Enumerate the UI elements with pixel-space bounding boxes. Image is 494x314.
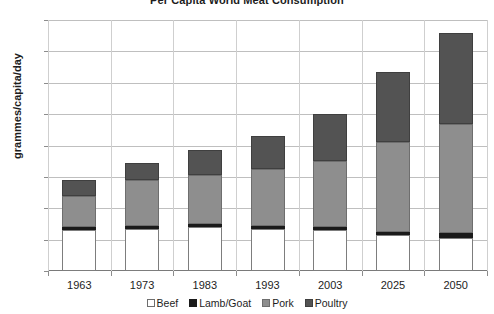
x-tick-label: 1983 — [175, 279, 235, 291]
bar-segment-pork[interactable] — [313, 161, 347, 227]
legend-swatch-beef-icon — [147, 299, 155, 307]
legend-label: Lamb/Goat — [199, 297, 251, 309]
category-divider — [487, 20, 488, 271]
plot-area — [48, 20, 487, 271]
y-axis-title: grammes/capita/day — [11, 6, 23, 206]
x-tick-label: 2025 — [363, 279, 423, 291]
chart-title: Per Capita World Meat Consumption — [0, 0, 494, 6]
legend-swatch-lamb-icon — [189, 299, 197, 307]
legend-swatch-pork-icon — [262, 299, 270, 307]
y-tick-mark — [44, 51, 48, 52]
bar-group[interactable] — [125, 20, 159, 271]
chart-legend: BeefLamb/GoatPorkPoultry — [0, 297, 494, 309]
legend-item-poultry[interactable]: Poultry — [305, 297, 348, 309]
bar-segment-poultry[interactable] — [62, 180, 96, 196]
bar-segment-lamb[interactable] — [188, 224, 222, 227]
bar-segment-beef[interactable] — [188, 227, 222, 271]
bar-segment-pork[interactable] — [125, 180, 159, 225]
y-tick-mark — [44, 240, 48, 241]
category-divider — [173, 20, 174, 271]
bar-segment-poultry[interactable] — [251, 136, 285, 169]
bar-segment-beef[interactable] — [251, 229, 285, 271]
bar-segment-poultry[interactable] — [313, 114, 347, 161]
category-divider — [424, 20, 425, 271]
category-divider — [236, 20, 237, 271]
bar-segment-beef[interactable] — [439, 238, 473, 271]
bar-segment-beef[interactable] — [313, 230, 347, 271]
bar-group[interactable] — [313, 20, 347, 271]
x-tick-mark — [173, 271, 174, 276]
bar-segment-pork[interactable] — [251, 169, 285, 225]
bar-group[interactable] — [188, 20, 222, 271]
category-divider — [362, 20, 363, 271]
x-tick-mark — [236, 271, 237, 276]
bar-segment-pork[interactable] — [62, 196, 96, 227]
legend-label: Pork — [272, 297, 294, 309]
y-tick-mark — [44, 114, 48, 115]
y-tick-mark — [44, 146, 48, 147]
bar-segment-poultry[interactable] — [125, 163, 159, 180]
x-tick-mark — [48, 271, 49, 276]
legend-item-beef[interactable]: Beef — [147, 297, 179, 309]
legend-label: Beef — [157, 297, 179, 309]
x-tick-label: 1973 — [112, 279, 172, 291]
y-tick-mark — [44, 83, 48, 84]
legend-label: Poultry — [315, 297, 348, 309]
x-tick-label: 1963 — [49, 279, 109, 291]
legend-item-lamb[interactable]: Lamb/Goat — [189, 297, 251, 309]
bar-segment-pork[interactable] — [439, 124, 473, 234]
x-tick-mark — [487, 271, 488, 276]
x-tick-mark — [299, 271, 300, 276]
x-tick-label: 1993 — [238, 279, 298, 291]
x-tick-mark — [424, 271, 425, 276]
bar-segment-lamb[interactable] — [313, 227, 347, 230]
bar-segment-lamb[interactable] — [125, 226, 159, 229]
y-tick-mark — [44, 177, 48, 178]
bar-group[interactable] — [376, 20, 410, 271]
bar-segment-poultry[interactable] — [188, 150, 222, 175]
bar-segment-lamb[interactable] — [251, 226, 285, 229]
bar-segment-pork[interactable] — [188, 175, 222, 224]
bar-chart: Per Capita World Meat Consumption gramme… — [0, 0, 494, 314]
bar-segment-pork[interactable] — [376, 142, 410, 231]
y-tick-mark — [44, 208, 48, 209]
bar-segment-lamb[interactable] — [62, 227, 96, 230]
category-divider — [299, 20, 300, 271]
bar-segment-beef[interactable] — [62, 230, 96, 271]
legend-swatch-poultry-icon — [305, 299, 313, 307]
bar-segment-lamb[interactable] — [439, 233, 473, 238]
bar-segment-poultry[interactable] — [439, 33, 473, 124]
y-tick-mark — [44, 20, 48, 21]
bar-segment-poultry[interactable] — [376, 72, 410, 143]
bar-group[interactable] — [251, 20, 285, 271]
x-tick-label: 2003 — [300, 279, 360, 291]
category-divider — [111, 20, 112, 271]
bar-segment-lamb[interactable] — [376, 232, 410, 235]
bar-group[interactable] — [439, 20, 473, 271]
x-tick-mark — [111, 271, 112, 276]
bar-segment-beef[interactable] — [125, 229, 159, 271]
x-tick-mark — [362, 271, 363, 276]
x-tick-label: 2050 — [426, 279, 486, 291]
bar-segment-beef[interactable] — [376, 235, 410, 271]
bar-group[interactable] — [62, 20, 96, 271]
category-divider — [48, 20, 49, 271]
legend-item-pork[interactable]: Pork — [262, 297, 294, 309]
